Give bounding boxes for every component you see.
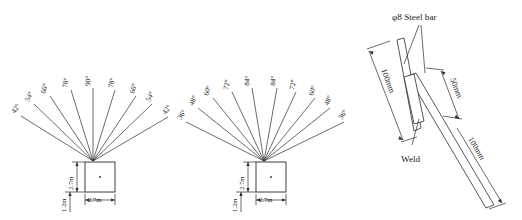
angle-label-36-right: 36° [337, 108, 349, 121]
ray-84-left [252, 88, 264, 161]
dim-100mm-left-line [369, 51, 403, 140]
angle-label-36-left: 36° [176, 108, 188, 121]
dim-arrow-offset-top-r [239, 192, 242, 196]
angle-label-72-right: 72° [288, 79, 298, 91]
ray-48-left [198, 108, 264, 161]
angle-label-72-left: 72° [222, 79, 232, 91]
angle-label-84-right: 84° [269, 75, 278, 86]
dim-arrow-width-right [111, 198, 115, 201]
dim-label-width-27-r: 2.7m [259, 196, 273, 203]
dim-100mm-left-ext-bottom [401, 137, 417, 142]
angle-label-84-left: 84° [243, 75, 252, 86]
ray-60-right [264, 98, 315, 161]
ray-60-left [213, 98, 264, 161]
angle-label-48-left: 48° [188, 94, 199, 107]
lower-steel-bar [408, 73, 494, 208]
dim-label-offset-12-r: 1.2m [231, 198, 238, 212]
ray-48-right [264, 108, 330, 161]
angle-label-48-right: 48° [323, 94, 334, 107]
angle-label-78-left: 78° [61, 77, 71, 88]
steel-bar-callout-label: φ8 Steel bar [392, 12, 437, 22]
angle-label-66-left: 66° [39, 83, 49, 95]
angle-label-54-right: 54° [145, 90, 156, 103]
dim-arrow-height-top [75, 162, 78, 166]
figure-canvas: 42° 54° 66° 78° 90° 78° 66° 54° 42° 2.7m… [0, 0, 522, 220]
dim-arrow-height-bottom-r [246, 188, 249, 192]
ray-36-right [264, 122, 344, 161]
angle-label-66-right: 66° [128, 83, 138, 95]
dim-100mm-left-label: 100mm [379, 67, 397, 94]
fan-right-panel: 36° 48° 60° 72° 84° 84° 72° 60° 48° 36° … [176, 75, 349, 212]
technical-drawing: 42° 54° 66° 78° 90° 78° 66° 54° 42° 2.7m… [0, 0, 522, 220]
ray-72-right [264, 92, 296, 161]
angle-label-78-right: 78° [107, 77, 117, 88]
ray-72-left [232, 92, 264, 161]
weld-label: Weld [401, 154, 421, 164]
dim-label-offset-12: 1.2m [60, 198, 67, 212]
dim-arrow-width-right-r [282, 198, 286, 201]
dim-100mm-left-ext-top [367, 41, 390, 49]
dim-label-height-27-r: 2.7m [238, 176, 245, 190]
ray-84-right [264, 88, 277, 161]
ray-66-right [93, 96, 136, 161]
dim-label-height-27: 2.7m [67, 176, 74, 190]
angle-label-60-right: 60° [307, 84, 318, 96]
dim-arrow-height-bottom [75, 188, 78, 192]
fan-left-panel: 42° 54° 66° 78° 90° 78° 66° 54° 42° 2.7m… [10, 76, 173, 212]
dim-50mm-ext-top [426, 68, 444, 70]
dim-arrow-offset-top [68, 192, 71, 196]
angle-label-42-left: 42° [10, 102, 22, 115]
angle-label-42-right: 42° [161, 103, 173, 116]
steel-bar-leader-left [404, 25, 419, 64]
fan-left-box-center-dot [99, 176, 101, 178]
fan-right-box-center-dot [270, 176, 272, 178]
steel-bar-panel: φ8 Steel bar Weld 100mm 50mm [367, 12, 506, 209]
ray-36-left [186, 122, 264, 161]
fan-right-rays [186, 88, 344, 161]
dim-label-width-27: 2.7m [88, 196, 102, 203]
dim-50mm-ext-bottom [443, 116, 462, 119]
ray-66-left [50, 96, 93, 161]
ray-42-left [21, 116, 93, 161]
dim-arrow-height-top-r [246, 162, 249, 166]
angle-label-54-left: 54° [24, 90, 35, 103]
angle-label-90-center: 90° [84, 76, 92, 86]
angle-label-60-left: 60° [202, 84, 213, 96]
steel-bar-leader-right [421, 25, 425, 73]
